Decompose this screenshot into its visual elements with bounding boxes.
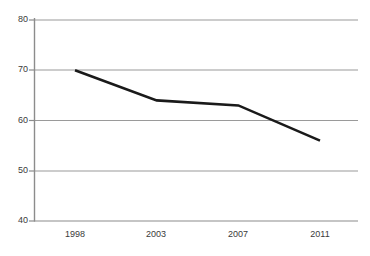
- y-tick-label-50: 50: [6, 166, 28, 175]
- series-polyline: [75, 70, 320, 140]
- x-tick-label-2007: 2007: [218, 230, 258, 239]
- x-tick-label-2011: 2011: [300, 230, 340, 239]
- y-tick-label-70: 70: [6, 65, 28, 74]
- line-chart: 80 70 60 50 40 1998 2003 2007 2011: [0, 0, 370, 256]
- x-tick-label-2003: 2003: [136, 230, 176, 239]
- chart-plot-area: [0, 0, 370, 256]
- data-series-line: [75, 70, 320, 140]
- x-tick-label-1998: 1998: [55, 230, 95, 239]
- y-axis: [29, 18, 35, 222]
- gridlines: [34, 20, 358, 221]
- y-tick-label-60: 60: [6, 116, 28, 125]
- y-tick-label-80: 80: [6, 15, 28, 24]
- y-tick-label-40: 40: [6, 216, 28, 225]
